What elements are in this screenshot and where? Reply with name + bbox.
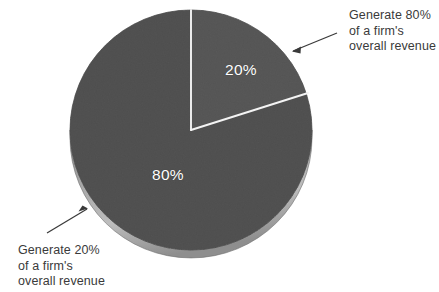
annotation-arrow-bottom-left	[47, 206, 88, 234]
annotation-top-right-line-3: overall revenue	[349, 39, 436, 55]
annotation-bottom-left-line-3: overall revenue	[18, 274, 105, 290]
annotation-text-bottom-left: Generate 20% of a firm's overall revenue	[18, 243, 105, 290]
annotation-top-right-line-1: Generate 80%	[349, 8, 436, 24]
pie-slice-label-80: 80%	[152, 166, 184, 184]
annotation-arrow-top-right	[292, 33, 337, 54]
pie-slice-label-20: 20%	[225, 61, 257, 79]
annotation-bottom-left-line-2: of a firm's	[18, 259, 105, 275]
chart-canvas: 20% 80% Generate 80% of a firm's overall…	[0, 0, 439, 292]
annotation-top-right-line-2: of a firm's	[349, 24, 436, 40]
annotation-text-top-right: Generate 80% of a firm's overall revenue	[349, 8, 436, 55]
annotation-bottom-left-line-1: Generate 20%	[18, 243, 105, 259]
